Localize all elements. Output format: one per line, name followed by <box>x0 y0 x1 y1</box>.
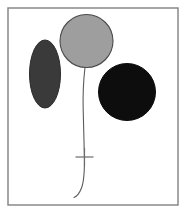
gray-balloon-circle <box>60 15 113 68</box>
figure-container: Balloon with string and two filled shape… <box>0 0 188 217</box>
figure-canvas <box>0 0 188 217</box>
dark-gray-ellipse <box>30 40 61 108</box>
black-circle <box>99 64 156 121</box>
